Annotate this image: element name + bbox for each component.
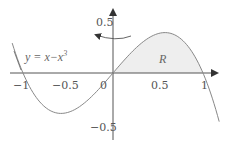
function-graph: y = x−x3 R 0.5 −0.5 −1 −0.5 0 0.5 1 [0, 0, 229, 146]
x-tick-label-0: 0 [100, 79, 107, 92]
x-tick-label-neg-1: −1 [13, 79, 29, 92]
y-tick-label-neg-0.5: −0.5 [90, 121, 117, 134]
cubic-curve [12, 33, 219, 122]
x-tick-label-1: 1 [201, 79, 208, 92]
x-tick-label-neg-0.5: −0.5 [52, 79, 79, 92]
equation-pointer-line [14, 51, 21, 70]
equation-label: y = x−x3 [24, 49, 67, 64]
region-label: R [158, 52, 167, 66]
shaded-region-r [113, 33, 203, 73]
x-tick-label-0.5: 0.5 [151, 79, 169, 92]
y-tick-label-0.5: 0.5 [96, 16, 114, 29]
